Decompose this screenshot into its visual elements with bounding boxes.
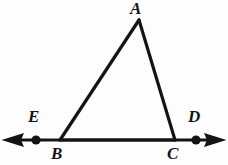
point-E-dot — [31, 135, 40, 144]
label-B: B — [51, 145, 62, 162]
segment-AC — [139, 20, 175, 140]
geometry-figure: A E D B C — [0, 0, 228, 165]
label-C: C — [167, 145, 178, 162]
arrowhead-right-icon — [204, 133, 227, 147]
label-E: E — [28, 108, 39, 125]
segment-AB — [60, 20, 139, 140]
label-D: D — [188, 108, 200, 125]
label-A: A — [130, 0, 141, 17]
point-D-dot — [191, 135, 200, 144]
arrowhead-left-icon — [2, 133, 25, 147]
geometry-canvas — [0, 0, 228, 165]
triangle-ABC — [60, 20, 175, 140]
